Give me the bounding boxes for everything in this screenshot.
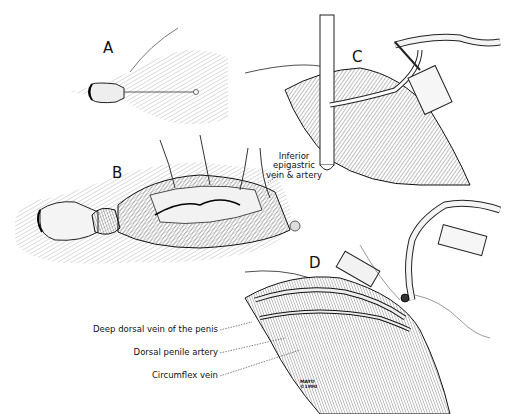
panel-label-a: A xyxy=(103,41,113,56)
panel-b-drawing xyxy=(15,135,300,264)
panel-label-d: D xyxy=(309,256,321,271)
annotation-circumflex-vein: Circumflex vein xyxy=(50,371,218,380)
panel-a-drawing xyxy=(70,28,228,124)
panel-label-b: B xyxy=(112,166,122,181)
mayo-signature: MAYO ©1990 xyxy=(300,380,317,389)
annotation-inferior-epigastric: Inferior epigastric vein & artery xyxy=(265,152,323,180)
panel-label-c: C xyxy=(352,50,362,65)
annotation-line: vein & artery xyxy=(265,171,323,180)
surgical-illustration-figure: A B C D Inferior epigastric vein & arter… xyxy=(0,0,515,414)
annotation-dorsal-penile-artery: Dorsal penile artery xyxy=(50,348,218,357)
signature-line: ©1990 xyxy=(300,385,317,390)
annotation-deep-dorsal-vein: Deep dorsal vein of the penis xyxy=(50,325,218,334)
